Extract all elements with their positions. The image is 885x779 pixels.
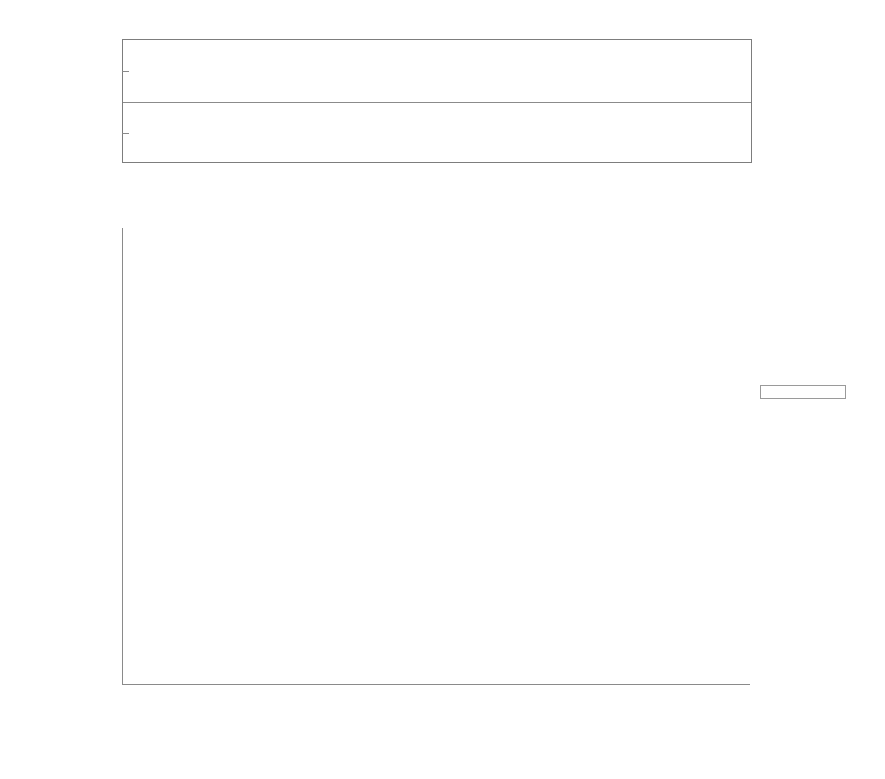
water-temperature-chart: [0, 0, 885, 205]
main-chart-y-axis-line: [122, 228, 123, 685]
temperature-reference-line-20: [123, 102, 751, 103]
top-chart-plot-area: [122, 39, 752, 163]
top-ytick-mark-30: [122, 71, 129, 72]
figure-root: [0, 0, 885, 779]
shell-length-chart: [0, 205, 885, 779]
main-chart-x-axis-line: [122, 684, 750, 685]
top-ytick-mark-10: [122, 133, 129, 134]
legend: [760, 385, 846, 399]
trend-dashed-line: [122, 228, 750, 685]
main-chart-plot-area: [122, 228, 750, 685]
